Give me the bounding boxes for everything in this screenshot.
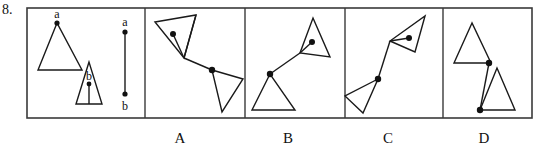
panel-dividers [145, 8, 443, 118]
reference-segment-point-a [122, 29, 127, 34]
option-D-triangle-bottom [480, 68, 515, 110]
option-D-dot-a [486, 60, 492, 66]
reference-segment-label-b: b [122, 99, 128, 113]
reference-segment-point-b [122, 91, 127, 96]
large-triangle-point [54, 20, 59, 25]
option-D[interactable] [454, 23, 515, 113]
option-D-connector [480, 63, 489, 110]
option-B[interactable] [252, 18, 330, 110]
options-panels [155, 15, 515, 113]
option-C[interactable] [345, 16, 425, 113]
option-C-triangle-bottom [345, 79, 378, 113]
option-C-dot-b [375, 76, 381, 82]
option-label-C[interactable]: C [373, 131, 403, 146]
option-A-dot-a [170, 31, 176, 37]
option-B-dot-b [267, 71, 273, 77]
option-C-dot-a [406, 35, 412, 41]
option-A-triangle-bottom [212, 70, 243, 112]
option-A-connector [184, 58, 212, 70]
option-C-triangle-top [390, 16, 425, 52]
small-triangle-label: b [86, 69, 92, 83]
option-A[interactable] [155, 15, 243, 112]
option-B-connector [270, 53, 300, 74]
option-label-B[interactable]: B [273, 131, 303, 146]
question-figure: 8. abab ABCD [0, 0, 535, 154]
option-D-dot-b [477, 107, 483, 113]
option-A-dot-b [209, 67, 215, 73]
reference-segment-label-a: a [122, 15, 128, 29]
option-label-D[interactable]: D [469, 131, 499, 146]
option-C-connector [378, 41, 390, 79]
option-B-triangle-top [300, 18, 330, 57]
large-triangle [38, 23, 82, 70]
option-B-dot-a [309, 39, 315, 45]
figure-canvas: abab [0, 0, 535, 154]
large-triangle-label: a [54, 7, 60, 21]
option-B-triangle-bottom [252, 74, 295, 110]
option-label-A[interactable]: A [165, 131, 195, 146]
stimulus-panel: abab [38, 7, 128, 113]
option-D-triangle-top [454, 23, 491, 63]
option-A-connector-long [184, 15, 196, 58]
